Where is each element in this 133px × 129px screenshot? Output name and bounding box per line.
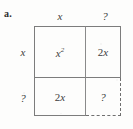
row-header-1-text: x — [21, 46, 26, 58]
cell-bottom-left-text: 2x — [55, 91, 65, 103]
cell-bottom-right-text: ? — [100, 91, 106, 103]
cell-bottom-left-variable: x — [60, 91, 65, 103]
area-model-grid: x2 2x 2x ? — [34, 26, 121, 116]
problem-label: a. — [4, 9, 12, 19]
cell-top-left-text: x2 — [56, 46, 64, 59]
row-header-2-text: ? — [20, 92, 26, 104]
column-header-1: x — [46, 10, 74, 22]
cell-top-left: x2 — [34, 26, 86, 78]
row-header-1: x — [14, 46, 32, 58]
area-model-figure: a. x ? x ? x2 2x 2x ? — [0, 0, 133, 129]
cell-top-left-exponent: 2 — [61, 46, 65, 54]
cell-top-right-text: 2x — [98, 46, 108, 58]
cell-bottom-right: ? — [86, 78, 121, 116]
column-header-2-text: ? — [102, 10, 108, 22]
cell-top-right-variable: x — [103, 46, 108, 58]
column-header-2: ? — [92, 10, 118, 22]
row-header-2: ? — [14, 92, 32, 104]
cell-bottom-left: 2x — [34, 78, 86, 116]
cell-top-right: 2x — [86, 26, 121, 78]
column-header-1-text: x — [58, 10, 63, 22]
